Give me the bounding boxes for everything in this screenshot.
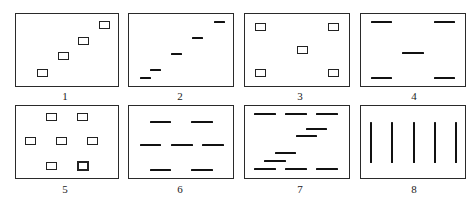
vertical-bar-shape — [455, 122, 457, 163]
dash-shape — [275, 152, 296, 154]
panel-label-7: 7 — [285, 183, 315, 195]
panel-6 — [128, 105, 234, 179]
dash-shape — [191, 169, 213, 171]
panel-label-6: 6 — [165, 183, 195, 195]
square-shape — [328, 23, 339, 31]
dash-shape — [171, 53, 182, 55]
panel-label-8: 8 — [399, 183, 429, 195]
square-shape — [99, 21, 110, 29]
square-shape — [77, 113, 88, 121]
dash-shape — [434, 21, 455, 23]
panel-label-1: 1 — [50, 90, 80, 102]
square-shape — [297, 46, 308, 54]
dash-shape — [316, 113, 338, 115]
dash-shape — [150, 169, 171, 171]
panel-4 — [360, 13, 466, 87]
dash-shape — [202, 144, 224, 146]
square-shape — [78, 37, 89, 45]
dash-shape — [254, 168, 276, 170]
panel-label-4: 4 — [399, 90, 429, 102]
square-shape — [56, 137, 67, 145]
dash-shape — [140, 77, 151, 79]
dash-shape — [371, 77, 392, 79]
panel-8 — [360, 105, 466, 179]
dash-shape — [150, 69, 161, 71]
dash-shape — [434, 77, 455, 79]
panel-label-3: 3 — [285, 90, 315, 102]
panel-3 — [244, 13, 350, 87]
dash-shape — [371, 21, 392, 23]
dash-shape — [316, 168, 338, 170]
dash-shape — [285, 113, 307, 115]
square-shape — [46, 113, 57, 121]
square-shape — [58, 52, 69, 60]
bold-square-shape — [77, 161, 89, 171]
panel-label-5: 5 — [50, 183, 80, 195]
panel-5 — [15, 105, 119, 179]
square-shape — [37, 69, 48, 77]
dash-shape — [214, 21, 225, 23]
dash-shape — [306, 128, 327, 130]
square-shape — [46, 162, 57, 170]
dash-shape — [254, 113, 276, 115]
square-shape — [25, 137, 36, 145]
dash-shape — [191, 121, 213, 123]
dash-shape — [192, 37, 203, 39]
panel-7 — [244, 105, 350, 179]
vertical-bar-shape — [434, 122, 436, 163]
panel-2 — [128, 13, 234, 87]
dash-shape — [285, 168, 307, 170]
square-shape — [328, 69, 339, 77]
dash-shape — [140, 144, 161, 146]
dash-shape — [264, 160, 286, 162]
vertical-bar-shape — [391, 122, 393, 163]
vertical-bar-shape — [413, 122, 415, 163]
panel-label-2: 2 — [165, 90, 195, 102]
panel-1 — [15, 13, 119, 87]
dash-shape — [171, 144, 193, 146]
square-shape — [255, 23, 266, 31]
dash-shape — [402, 52, 424, 54]
square-shape — [255, 69, 266, 77]
dash-shape — [150, 121, 171, 123]
dash-shape — [296, 135, 317, 137]
vertical-bar-shape — [370, 122, 372, 163]
square-shape — [87, 137, 98, 145]
